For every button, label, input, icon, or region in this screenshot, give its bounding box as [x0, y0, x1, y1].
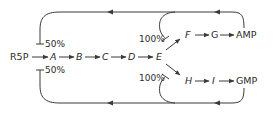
node-h: H — [185, 76, 192, 86]
label-inhibit-f: 100% — [139, 35, 165, 44]
node-g: G — [211, 30, 218, 40]
node-e: E — [156, 52, 162, 62]
node-i: I — [212, 76, 215, 86]
label-inhibit-h: 100% — [139, 74, 165, 83]
node-gmp: GMP — [236, 76, 257, 86]
node-amp: AMP — [236, 30, 256, 40]
purine-feedback-diagram: R5P A B C D E F G AMP H I GMP 50% 50% 10… — [0, 0, 276, 113]
label-inhibit-a-top: 50% — [45, 40, 65, 49]
node-a: A — [50, 52, 57, 62]
node-r5p: R5P — [10, 52, 28, 62]
arrow-e-h — [166, 64, 180, 75]
diagram-arrows — [0, 0, 276, 113]
node-f: F — [185, 30, 190, 40]
node-d: D — [128, 52, 135, 62]
arrow-e-f — [166, 39, 180, 50]
label-inhibit-a-bottom: 50% — [45, 66, 65, 75]
node-c: C — [102, 52, 109, 62]
node-b: B — [76, 52, 83, 62]
